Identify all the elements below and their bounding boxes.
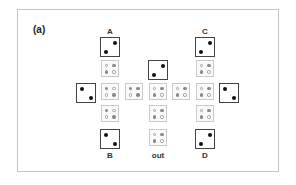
terminal-box-right [219,83,239,103]
filled-dot [105,87,108,90]
label-out: out [143,151,173,160]
open-dot [112,109,115,112]
label-d: D [190,151,220,160]
filled-dot [183,87,186,90]
filled-dot [160,133,163,136]
open-dot [129,93,132,96]
filled-dot [199,142,203,146]
open-dot [183,93,186,96]
filled-dot [207,87,210,90]
open-dot [160,93,163,96]
open-dot [105,115,108,118]
label-b: B [95,151,125,160]
terminal-box-d [195,129,215,149]
filled-dot [112,93,115,96]
intermediate-box [196,83,214,100]
intermediate-box [196,60,214,77]
intermediate-box [101,60,119,77]
filled-dot [105,109,108,112]
filled-dot [160,109,163,112]
open-dot [200,87,203,90]
intermediate-box [101,105,119,122]
open-dot [200,64,203,67]
filled-dot [200,93,203,96]
intermediate-box [196,105,214,122]
intermediate-box [125,83,143,100]
terminal-box-c [195,37,215,57]
open-dot [153,109,156,112]
terminal-box-left [76,83,96,103]
filled-dot [136,93,139,96]
intermediate-box [172,83,190,100]
filled-dot [153,139,156,142]
filled-dot [153,115,156,118]
filled-dot [129,87,132,90]
filled-dot [232,96,236,100]
filled-dot [208,41,212,45]
filled-dot [176,93,179,96]
open-dot [200,109,203,112]
filled-dot [200,70,203,73]
filled-dot [152,73,156,77]
filled-dot [105,70,108,73]
filled-dot [199,50,203,54]
filled-dot [223,87,227,91]
open-dot [160,115,163,118]
filled-dot [207,64,210,67]
panel-label: (a) [33,24,45,35]
open-dot [207,115,210,118]
intermediate-box [101,83,119,100]
filled-dot [208,133,212,137]
filled-dot [112,64,115,67]
filled-dot [80,87,84,91]
filled-dot [136,87,139,90]
label-c: C [190,27,220,36]
open-dot [105,64,108,67]
open-dot [176,87,179,90]
intermediate-box [149,105,167,122]
figure-frame [17,9,279,172]
terminal-box-center-top [148,60,168,80]
label-a: A [95,27,125,36]
filled-dot [160,87,163,90]
open-dot [160,139,163,142]
filled-dot [200,115,203,118]
open-dot [112,70,115,73]
open-dot [112,87,115,90]
filled-dot [89,96,93,100]
filled-dot [153,93,156,96]
terminal-box-b [100,129,120,149]
filled-dot [207,109,210,112]
filled-dot [104,50,108,54]
open-dot [153,133,156,136]
filled-dot [113,142,117,146]
open-dot [153,87,156,90]
filled-dot [113,41,117,45]
filled-dot [104,133,108,137]
intermediate-box-out [149,129,167,146]
terminal-box-a [100,37,120,57]
open-dot [105,93,108,96]
intermediate-box [149,83,167,100]
filled-dot [112,115,115,118]
open-dot [207,93,210,96]
filled-dot [161,64,165,68]
open-dot [207,70,210,73]
